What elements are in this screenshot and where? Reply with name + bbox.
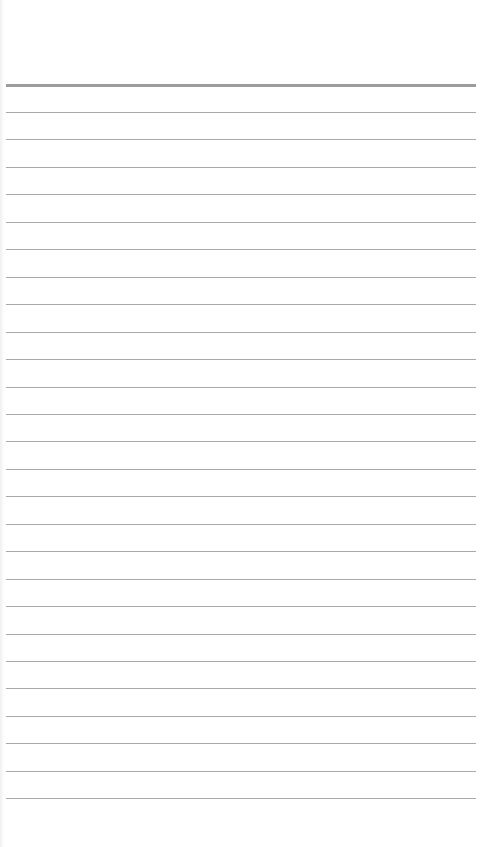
paper-left-edge-shadow	[0, 0, 4, 847]
ruled-line	[6, 332, 476, 333]
ruled-line	[6, 469, 476, 470]
ruled-line	[6, 359, 476, 360]
ruled-line	[6, 139, 476, 140]
ruled-line	[6, 661, 476, 662]
ruled-line	[6, 304, 476, 305]
ruled-line	[6, 441, 476, 442]
ruled-line	[6, 249, 476, 250]
ruled-line	[6, 798, 476, 799]
ruled-lines-container	[6, 0, 476, 847]
ruled-line	[6, 716, 476, 717]
ruled-line	[6, 387, 476, 388]
ruled-line	[6, 167, 476, 168]
ruled-line	[6, 222, 476, 223]
ruled-line	[6, 634, 476, 635]
ruled-line	[6, 194, 476, 195]
ruled-line	[6, 277, 476, 278]
ruled-line	[6, 414, 476, 415]
ruled-line	[6, 112, 476, 113]
ruled-line	[6, 524, 476, 525]
ruled-line	[6, 551, 476, 552]
ruled-line	[6, 771, 476, 772]
header-rule-line	[6, 84, 476, 87]
ruled-line	[6, 743, 476, 744]
ruled-line	[6, 579, 476, 580]
ruled-line	[6, 606, 476, 607]
ruled-line	[6, 496, 476, 497]
ruled-line	[6, 688, 476, 689]
